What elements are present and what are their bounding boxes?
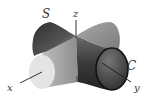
diagram-canvas: S z C y x (0, 0, 151, 100)
label-x: x (7, 82, 13, 93)
label-c: C (127, 59, 136, 73)
label-y: y (133, 82, 140, 93)
intersecting-cylinders-figure: S z C y x (0, 0, 151, 100)
label-s: S (42, 7, 50, 21)
label-z: z (72, 8, 79, 19)
